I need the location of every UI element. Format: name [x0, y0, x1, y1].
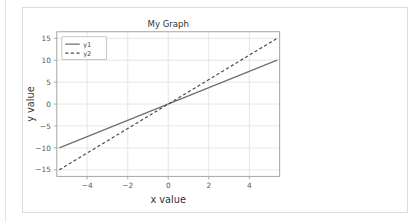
y-axis-label: y value: [25, 86, 36, 121]
x-tick-label: 4: [247, 181, 252, 190]
y-tick-label: 15: [42, 34, 52, 43]
y-tick-label: 0: [46, 100, 51, 109]
legend-label-y2: y2: [83, 50, 91, 58]
x-tickmarks: [87, 176, 249, 179]
y-tick-label: 5: [46, 78, 51, 87]
y-tick-label: 10: [42, 56, 52, 65]
chart-title: My Graph: [148, 19, 189, 29]
y-tick-labels: 15 10 5 0 −5 −10 −15: [35, 34, 51, 174]
x-tick-label: −2: [122, 181, 133, 190]
y-tick-label: −5: [40, 122, 51, 131]
x-tick-label: 2: [206, 181, 211, 190]
x-tick-label: 0: [166, 181, 171, 190]
matplotlib-figure: −4 −2 0 2 4 15 10 5 0 −5 −10 −15 My Grap…: [23, 8, 407, 212]
y-tick-label: −10: [35, 144, 51, 153]
legend-label-y1: y1: [83, 41, 91, 49]
y-tick-label: −15: [35, 165, 51, 174]
legend[interactable]: y1 y2: [62, 37, 107, 60]
x-tick-labels: −4 −2 0 2 4: [82, 181, 252, 190]
chart-card: −4 −2 0 2 4 15 10 5 0 −5 −10 −15 My Grap…: [22, 7, 408, 213]
x-tick-label: −4: [82, 181, 93, 190]
left-edge-sliver: [0, 0, 6, 222]
chart-svg: −4 −2 0 2 4 15 10 5 0 −5 −10 −15 My Grap…: [23, 8, 407, 212]
x-axis-label: x value: [151, 194, 186, 205]
